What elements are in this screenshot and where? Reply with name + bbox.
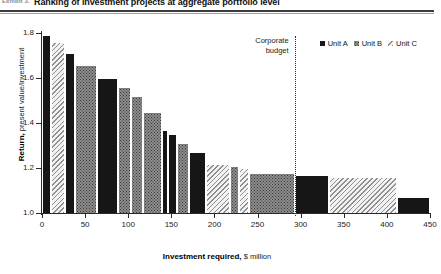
legend-label-3: Unit C <box>396 39 417 48</box>
y-axis-title: Return, present value/investment <box>17 40 26 170</box>
x-tick-0 <box>42 214 43 218</box>
x-tick-9 <box>430 214 431 218</box>
bar-13 <box>206 164 230 214</box>
legend-label-1: Unit A <box>328 39 348 48</box>
bar-12 <box>189 152 205 213</box>
x-tick-7 <box>344 214 345 218</box>
x-tick-label-0: 0 <box>27 220 57 229</box>
x-tick-label-7: 350 <box>329 220 359 229</box>
x-tick-label-2: 100 <box>113 220 143 229</box>
legend-label-2: Unit B <box>362 39 382 48</box>
bar-19 <box>397 197 430 213</box>
legend: Unit AUnit BUnit C <box>319 39 417 48</box>
y-tick-2 <box>36 123 41 124</box>
x-tick-label-1: 50 <box>70 220 100 229</box>
y-tick-4 <box>36 33 41 34</box>
x-axis-title: Investment required, $ million <box>0 252 434 261</box>
legend-swatch-icon-3 <box>387 40 394 47</box>
y-tick-label-4: 1.8 <box>23 28 34 37</box>
corporate-budget-line <box>295 36 296 216</box>
y-axis-title-bold: Return, <box>17 133 26 161</box>
bar-5 <box>97 78 118 213</box>
y-tick-1 <box>36 168 41 169</box>
bar-14 <box>230 166 239 213</box>
bar-10 <box>168 134 177 213</box>
bar-7 <box>131 96 143 213</box>
bar-3 <box>65 53 74 213</box>
y-tick-label-0: 1.0 <box>23 208 34 217</box>
bar-15 <box>239 168 249 213</box>
x-tick-label-5: 250 <box>243 220 273 229</box>
bar-1 <box>42 35 51 213</box>
bar-6 <box>118 87 131 213</box>
x-tick-label-9: 450 <box>415 220 441 229</box>
bar-18 <box>329 177 397 213</box>
legend-item-unit-c: Unit C <box>387 39 417 48</box>
x-tick-label-4: 200 <box>199 220 229 229</box>
corporate-budget-label-line2: budget <box>233 46 289 56</box>
y-axis-title-rest: present value/investment <box>17 48 26 133</box>
corporate-budget-label: Corporate budget <box>233 36 289 55</box>
x-tick-label-6: 300 <box>286 220 316 229</box>
legend-item-unit-b: Unit B <box>353 39 382 48</box>
x-tick-label-8: 400 <box>372 220 402 229</box>
y-tick-3 <box>36 78 41 79</box>
x-tick-label-3: 150 <box>156 220 186 229</box>
x-axis-title-bold: Investment required, <box>163 252 242 261</box>
bar-4 <box>75 65 97 214</box>
x-axis-title-rest: $ million <box>242 252 272 261</box>
x-tick-4 <box>214 214 215 218</box>
page-title: Ranking of investment projects at aggreg… <box>34 0 280 7</box>
title-bar: Exhibit 3. Ranking of investment project… <box>0 0 434 9</box>
x-tick-3 <box>171 214 172 218</box>
title-rule-thin <box>0 13 434 14</box>
bar-8 <box>143 112 162 213</box>
corporate-budget-label-line1: Corporate <box>233 36 289 46</box>
legend-item-unit-a: Unit A <box>319 39 348 48</box>
x-axis-line <box>41 213 431 214</box>
title-rule-thick <box>0 10 434 12</box>
bar-16 <box>249 173 295 214</box>
bar-2 <box>51 42 65 213</box>
bar-11 <box>177 143 189 213</box>
x-tick-8 <box>387 214 388 218</box>
x-tick-1 <box>85 214 86 218</box>
x-tick-6 <box>301 214 302 218</box>
legend-swatch-icon-2 <box>353 40 360 47</box>
legend-swatch-icon-1 <box>319 40 326 47</box>
y-tick-0 <box>36 213 41 214</box>
x-tick-2 <box>128 214 129 218</box>
plot-area <box>42 33 430 213</box>
bar-17 <box>295 175 329 213</box>
x-tick-5 <box>258 214 259 218</box>
